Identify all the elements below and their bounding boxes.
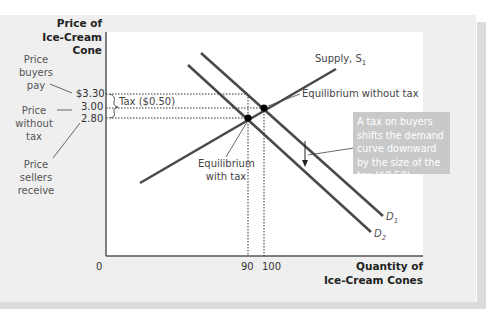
- x-tick-90: 90: [241, 261, 254, 272]
- supply-label: Supply, S1: [315, 52, 366, 70]
- tax-label: Tax ($0.50): [119, 95, 175, 108]
- equilibrium-with-tax-label: Equilibrium with tax: [198, 157, 254, 183]
- tax-shift-annotation: A tax on buyers shifts the demand curve …: [353, 112, 450, 174]
- x-tick-100: 100: [262, 261, 281, 272]
- x-axis-title: Quantity of Ice-Cream Cones: [300, 260, 423, 287]
- price-sellers-receive-label: Price sellers receive: [12, 158, 60, 197]
- price-buyers-pay-label: Price buyers pay: [16, 53, 56, 92]
- annotation-leader: [308, 148, 354, 155]
- d1-label: D1: [386, 211, 398, 225]
- tax-brace: [110, 94, 118, 118]
- eq-without-leader: [268, 94, 300, 106]
- x-tick-0: 0: [96, 261, 102, 272]
- y-tick-330: $3.30: [76, 88, 105, 99]
- price-without-tax-label: Price without tax: [12, 104, 56, 143]
- equilibrium-without-tax-label: Equilibrium without tax: [302, 87, 419, 100]
- equilibrium-without-tax-point: [260, 104, 267, 111]
- equilibrium-with-tax-point: [244, 114, 251, 121]
- y-tick-280: 2.80: [81, 113, 103, 124]
- y-tick-300: 3.00: [81, 101, 103, 112]
- y-axis-title: Price of Ice-Cream Cone: [40, 17, 102, 58]
- d2-label: D2: [374, 228, 386, 242]
- shift-arrow-head: [302, 160, 308, 167]
- sellers-receive-leader: [53, 123, 80, 158]
